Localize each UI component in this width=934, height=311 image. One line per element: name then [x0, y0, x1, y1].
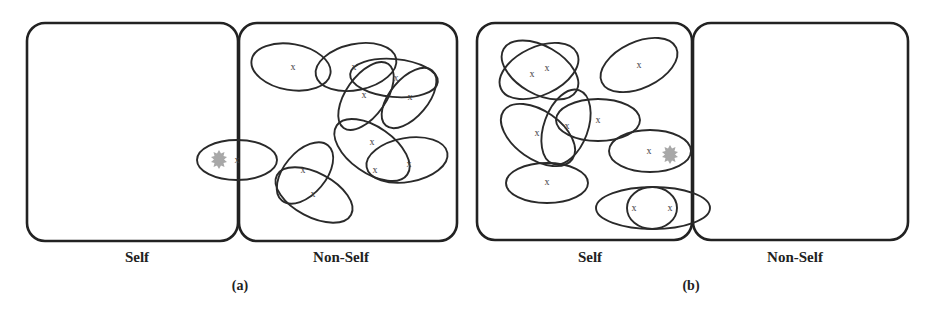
self-label-b: Self [578, 249, 603, 265]
svg-text:x: x [637, 59, 642, 70]
nonself-region-b [693, 23, 908, 240]
svg-text:x: x [301, 164, 306, 175]
self-region-a [27, 23, 238, 241]
svg-text:x: x [362, 89, 367, 100]
svg-text:x: x [545, 176, 550, 187]
svg-text:x: x [647, 145, 652, 156]
svg-text:x: x [394, 72, 399, 83]
svg-text:x: x [235, 154, 240, 165]
svg-text:x: x [352, 61, 357, 72]
detectors-b [490, 27, 710, 229]
self-label-a: Self [125, 249, 150, 265]
panel-b: x x x x x x x x x x Self Non-Self (b) [477, 23, 908, 294]
svg-text:x: x [311, 188, 316, 199]
svg-text:x: x [408, 91, 413, 102]
svg-text:x: x [407, 158, 412, 169]
svg-text:x: x [373, 164, 378, 175]
figure-canvas: x x x x x x x x x x x Self Non-Self (a) [0, 0, 934, 311]
detector-centers-a: x x x x x x x x x x x [235, 61, 413, 199]
svg-text:x: x [370, 136, 375, 147]
nonself-label-b: Non-Self [767, 249, 824, 265]
caption-b: (b) [682, 278, 699, 294]
svg-text:x: x [632, 202, 637, 213]
svg-text:x: x [530, 68, 535, 79]
svg-text:x: x [535, 127, 540, 138]
svg-text:x: x [668, 202, 673, 213]
anomaly-star-icon [662, 145, 678, 164]
nonself-label-a: Non-Self [313, 249, 370, 265]
panel-a: x x x x x x x x x x x Self Non-Self (a) [27, 23, 457, 294]
caption-a: (a) [232, 278, 249, 294]
detectors-a [197, 36, 451, 234]
svg-text:x: x [565, 120, 570, 131]
svg-text:x: x [291, 61, 296, 72]
svg-text:x: x [545, 62, 550, 73]
detector-ellipse [492, 28, 589, 112]
nonself-region-a [239, 23, 457, 241]
anomaly-star-icon [211, 150, 227, 169]
svg-text:x: x [596, 114, 601, 125]
